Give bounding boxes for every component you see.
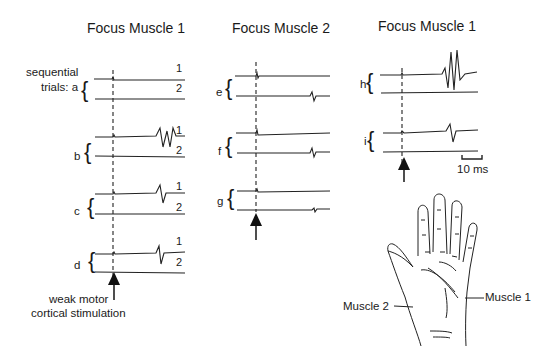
arrow-up-icon-right (398, 157, 410, 170)
traces-and-hand-drawing (0, 0, 552, 358)
arrow-up-icon (108, 272, 120, 285)
hand-drawing (388, 194, 484, 346)
arrow-up-icon-middle (250, 213, 262, 226)
scale-bar (462, 155, 482, 159)
